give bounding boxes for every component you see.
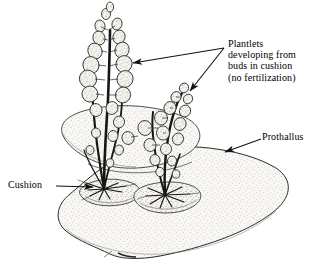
plantlets-label: Plantlets developing from buds in cushio… xyxy=(228,38,296,83)
prothallus-label: Prothallus xyxy=(262,131,304,142)
leader-plantlets-left xyxy=(133,48,224,63)
leader-prothallus xyxy=(225,139,261,152)
fern-prothallus-figure: Plantlets developing from buds in cushio… xyxy=(0,0,317,272)
leader-plantlets-right xyxy=(190,48,224,91)
cushion-label: Cushion xyxy=(8,179,42,190)
cushion-mound-left xyxy=(80,179,140,206)
